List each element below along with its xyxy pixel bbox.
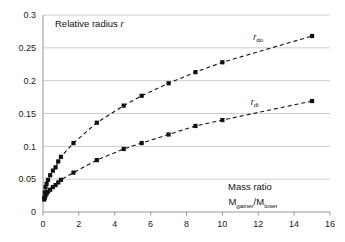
data-point-marker (220, 118, 224, 122)
y-tick-label-0.25: 0.25 (18, 43, 36, 53)
x-axis-title-line1: Mass ratio (228, 181, 272, 192)
data-point-marker (95, 158, 99, 162)
data-point-marker (53, 165, 57, 169)
y-tick-label-0.15: 0.15 (18, 109, 36, 119)
data-point-marker (48, 173, 52, 177)
x-tick-label-4: 4 (112, 219, 117, 229)
x-tick-label-2: 2 (76, 219, 81, 229)
y-tick-label-0.2: 0.2 (23, 76, 36, 86)
data-point-marker (310, 99, 314, 103)
data-point-marker (59, 155, 63, 159)
chart-background (0, 0, 345, 242)
data-point-marker (310, 34, 314, 38)
data-point-marker (140, 141, 144, 145)
data-point-marker (220, 60, 224, 64)
x-tick-label-6: 6 (148, 219, 153, 229)
x-tick-label-0: 0 (40, 219, 45, 229)
data-point-marker (56, 159, 60, 163)
y-tick-label-0.3: 0.3 (23, 10, 36, 20)
data-point-marker (59, 178, 63, 182)
data-point-marker (140, 94, 144, 98)
data-point-marker (122, 147, 126, 151)
x-tick-label-16: 16 (325, 219, 335, 229)
y-tick-label-0: 0 (31, 207, 36, 217)
data-point-marker (166, 132, 170, 136)
data-point-marker (71, 171, 75, 175)
data-point-marker (193, 70, 197, 74)
data-point-marker (166, 81, 170, 85)
data-point-marker (122, 104, 126, 108)
relative-radius-vs-mass-ratio-chart: 0246810121416 00.050.10.150.20.250.3 rdo… (0, 0, 345, 242)
y-tick-label-0.05: 0.05 (18, 174, 36, 184)
data-point-marker (193, 124, 197, 128)
x-tick-label-8: 8 (184, 219, 189, 229)
y-tick-label-0.1: 0.1 (23, 142, 36, 152)
x-tick-label-12: 12 (253, 219, 263, 229)
chart-figure: 0246810121416 00.050.10.150.20.250.3 rdo… (0, 0, 345, 242)
data-point-marker (71, 141, 75, 145)
x-tick-label-14: 14 (289, 219, 299, 229)
x-tick-label-10: 10 (217, 219, 227, 229)
data-point-marker (46, 178, 50, 182)
data-point-marker (95, 121, 99, 125)
data-point-marker (44, 182, 48, 186)
y-axis-title: Relative radius r (55, 18, 124, 29)
